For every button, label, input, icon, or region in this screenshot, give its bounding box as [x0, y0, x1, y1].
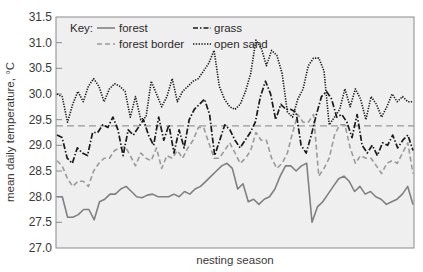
legend-label-forest: forest	[119, 22, 149, 34]
legend-label-forest-border: forest border	[119, 38, 184, 50]
y-tick-label: 27.0	[29, 241, 53, 255]
y-tick-label: 31.5	[29, 10, 53, 24]
y-axis-label: mean daily temperature, °C	[4, 62, 16, 202]
legend-label-grass: grass	[214, 22, 242, 34]
y-tick-label: 30.5	[29, 61, 53, 75]
y-tick-label: 28.0	[29, 190, 53, 204]
y-tick-label: 29.5	[29, 113, 53, 127]
y-tick-label: 28.5	[29, 164, 53, 178]
legend-label-open-sand: open sand	[214, 38, 268, 50]
y-tick-label: 31.0	[29, 36, 53, 50]
legend-title: Key:	[70, 22, 93, 34]
y-tick-label: 29.0	[29, 138, 53, 152]
temperature-line-chart: 27.027.528.028.529.029.530.030.531.031.5…	[0, 0, 423, 272]
y-tick-label: 30.0	[29, 87, 53, 101]
x-axis-label: nesting season	[196, 254, 273, 266]
y-tick-label: 27.5	[29, 215, 53, 229]
